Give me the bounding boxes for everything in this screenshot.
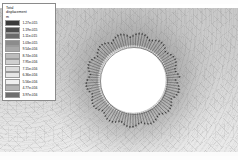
legend-value-label: 3.97e-016	[23, 92, 38, 99]
legend-color-swatch	[5, 40, 20, 46]
legend-color-swatch	[5, 66, 20, 72]
legend-entry: 3.97e-016	[5, 92, 53, 99]
legend-color-swatch	[5, 72, 20, 78]
legend-color-swatch	[5, 27, 20, 33]
legend-color-swatch	[5, 85, 20, 91]
legend-entry-list: 1.27e-0151.19e-0151.11e-0151.03e-0159.54…	[5, 20, 53, 98]
legend-unit: m	[5, 15, 53, 19]
legend-color-swatch	[5, 92, 20, 98]
legend-box[interactable]: Total displacement m 1.27e-0151.19e-0151…	[2, 3, 56, 101]
legend-color-swatch	[5, 79, 20, 85]
legend-color-swatch	[5, 33, 20, 39]
hole-boundary	[100, 47, 168, 115]
legend-color-swatch	[5, 20, 20, 26]
legend-color-swatch	[5, 46, 20, 52]
fea-plot-window: Total displacement m 1.27e-0151.19e-0151…	[0, 0, 238, 160]
plot-bottom-margin	[0, 152, 238, 156]
legend-color-swatch	[5, 53, 20, 59]
legend-color-swatch	[5, 59, 20, 65]
